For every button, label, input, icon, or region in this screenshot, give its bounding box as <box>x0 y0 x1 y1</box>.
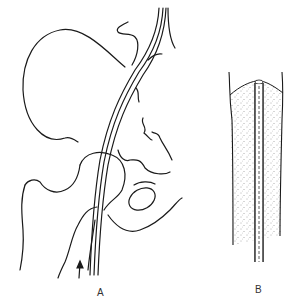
femoral-head <box>80 152 125 210</box>
obturator-foramen <box>125 183 159 214</box>
panel-a-drawing <box>20 8 182 278</box>
obturator-rim <box>134 182 155 185</box>
tissue-contour-2 <box>142 118 152 140</box>
tissue-contour-1 <box>136 88 139 102</box>
arrow-head-icon <box>77 261 83 268</box>
femur-lateral-outline <box>25 165 80 192</box>
figure-caption-partial: …… <box>140 298 220 302</box>
ischium-contour <box>108 198 182 231</box>
panel-label-a: A <box>97 287 104 298</box>
pelvic-contour-upper <box>152 132 172 160</box>
figure-canvas <box>0 0 291 302</box>
sacral-contour <box>117 22 138 65</box>
panel-label-b: B <box>255 284 262 295</box>
vessel-right-top <box>168 8 175 48</box>
catheter-tip <box>255 80 263 84</box>
panel-b-drawing <box>229 72 283 262</box>
femur-lateral-shaft <box>20 185 25 270</box>
pubis-contour <box>118 150 170 174</box>
